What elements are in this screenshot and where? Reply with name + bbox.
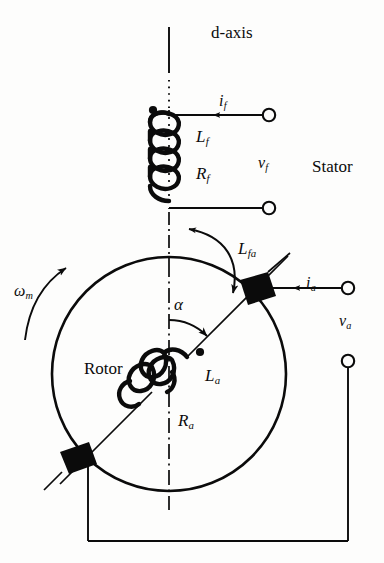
field-circuit-leads <box>169 115 263 208</box>
field-resistance-subscript: f <box>207 172 210 184</box>
stator-label: Stator <box>312 158 353 175</box>
mutual-inductance-label: Lfa <box>238 240 256 257</box>
machine-diagram-figure: d-axis Stator Rotor if vf Lf Rf Lfa α ωm… <box>0 0 384 563</box>
armature-terminal-negative <box>342 355 354 367</box>
armature-inductance-subscript: a <box>215 374 220 386</box>
alpha-angle-label: α <box>174 296 183 313</box>
omega-subscript: m <box>26 290 33 301</box>
field-terminal-positive <box>263 109 275 121</box>
armature-current-subscript: a <box>311 282 316 293</box>
field-current-label: if <box>219 93 226 109</box>
d-axis-label: d-axis <box>211 24 253 41</box>
field-inductance-subscript: f <box>206 135 209 147</box>
rotor-label: Rotor <box>84 360 123 377</box>
field-inductance-symbol: L <box>196 127 205 146</box>
mutual-inductance-symbol: L <box>238 239 247 258</box>
armature-resistance-label: Ra <box>178 412 194 429</box>
armature-voltage-subscript: a <box>346 320 351 331</box>
armature-inductance-symbol: L <box>205 366 214 385</box>
field-polarity-dot <box>149 106 157 114</box>
field-resistance-symbol: R <box>196 164 206 183</box>
armature-terminal-positive <box>342 282 354 294</box>
mutual-inductance-subscript: fa <box>248 247 256 259</box>
field-voltage-label: vf <box>258 155 268 171</box>
field-inductance-label: Lf <box>196 128 209 145</box>
armature-current-label: ia <box>306 275 316 291</box>
alpha-angle-arc <box>169 320 207 336</box>
armature-polarity-dot <box>196 348 204 356</box>
armature-voltage-label: va <box>339 313 351 329</box>
diagram-canvas <box>0 0 384 563</box>
armature-resistance-symbol: R <box>178 411 188 430</box>
field-resistance-label: Rf <box>196 165 209 182</box>
rotor-speed-label: ωm <box>14 283 33 299</box>
field-current-symbol: i <box>219 92 223 109</box>
field-current-subscript: f <box>224 100 227 111</box>
armature-current-symbol: i <box>306 274 310 291</box>
alpha-symbol: α <box>174 295 183 314</box>
armature-resistance-subscript: a <box>189 419 194 431</box>
omega-symbol: ω <box>14 282 25 299</box>
brush-bottom-left <box>60 442 97 474</box>
armature-inductance-label: La <box>205 367 220 384</box>
field-terminal-negative <box>263 202 275 214</box>
field-voltage-subscript: f <box>265 162 268 173</box>
field-winding-coil <box>150 112 179 201</box>
armature-winding-coil <box>119 350 187 407</box>
